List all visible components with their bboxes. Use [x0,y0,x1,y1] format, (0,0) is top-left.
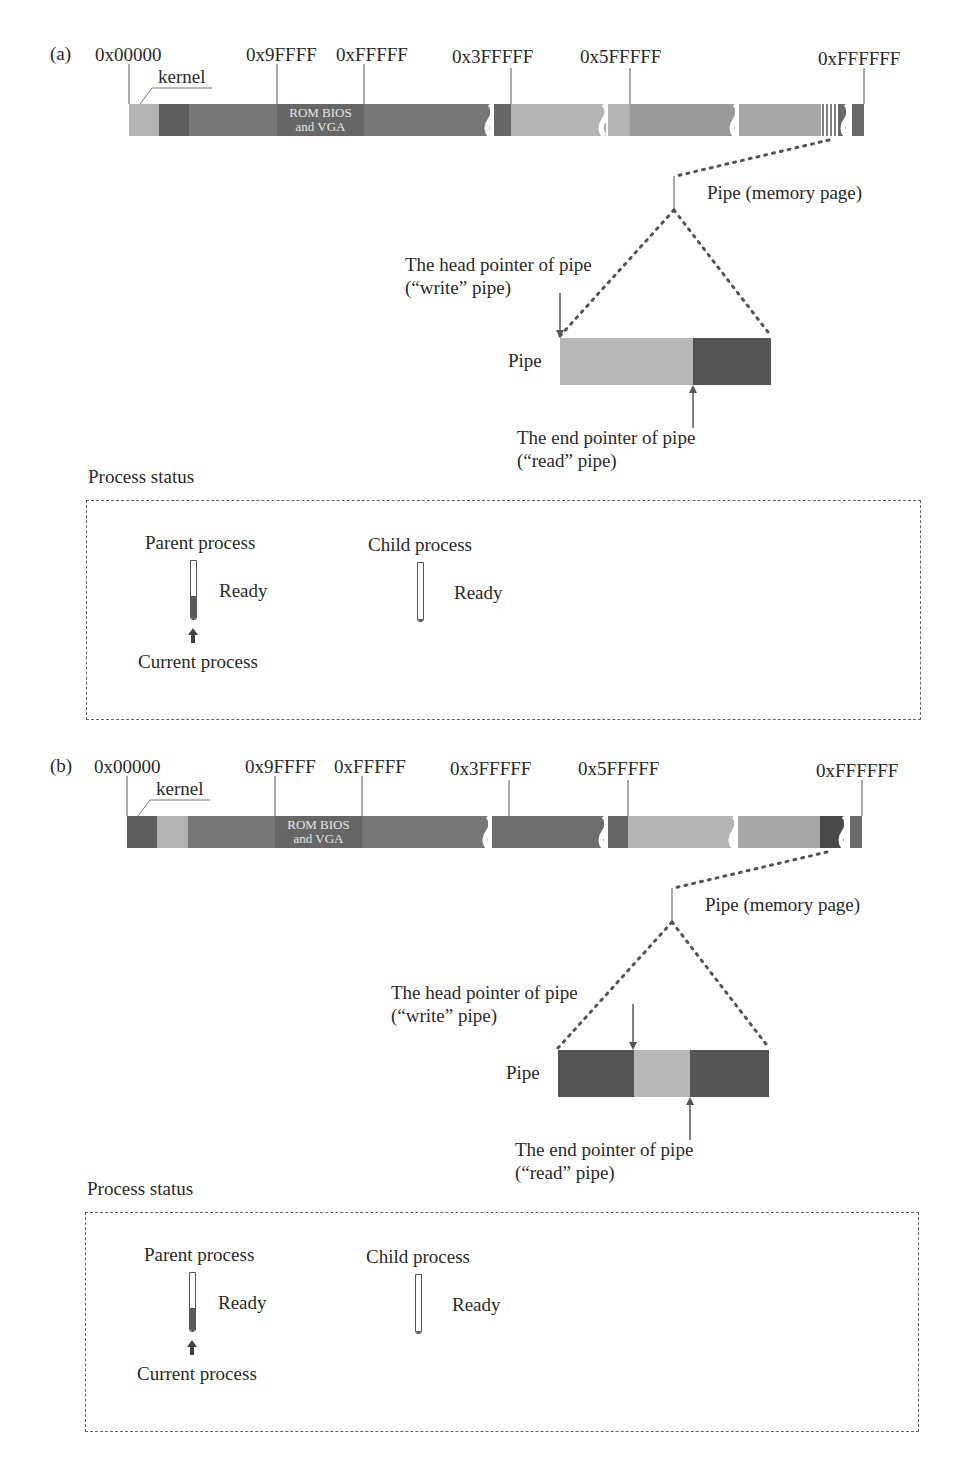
child-process-label: Child process [368,534,472,555]
current-process-label: Current process [138,651,258,672]
rom-bios-vga-label: ROM BIOS and VGA [277,106,364,134]
head-pointer-label: The head pointer of pipe [391,982,578,1003]
parent-state: Ready [218,1292,267,1313]
child-process-label: Child process [366,1246,470,1267]
pipe-label: Pipe [506,1062,540,1083]
end-pointer-label: The end pointer of pipe [517,427,695,448]
end-pointer-label: The end pointer of pipe [515,1139,693,1160]
address-label: 0x5FFFFF [580,46,661,67]
address-label: 0x3FFFFF [450,758,531,779]
pipe-memory-page-label: Pipe (memory page) [707,182,862,203]
pipe-label: Pipe [508,350,542,371]
end-pointer-sublabel: (“read” pipe) [515,1162,615,1183]
current-process-arrow-stem [190,1347,194,1355]
address-label: 0xFFFFF [334,756,406,777]
pipe-memory-page-label: Pipe (memory page) [705,894,860,915]
process-status-title: Process status [88,466,194,487]
parent-process-indicator [190,560,197,620]
kernel-label: kernel [158,66,205,87]
address-label: 0x9FFFF [245,756,316,777]
head-pointer-sublabel: (“write” pipe) [391,1005,497,1026]
address-label: 0x00000 [95,44,162,65]
kernel-label: kernel [156,778,203,799]
address-label: 0x5FFFFF [578,758,659,779]
panel-b: (b) 0x00000 0x9FFFF 0xFFFFF 0x3FFFFF 0x5… [0,712,964,1464]
child-process-indicator [417,562,424,622]
parent-process-label: Parent process [144,1244,254,1265]
child-process-indicator [415,1274,422,1334]
address-label: 0xFFFFF [336,44,408,65]
current-process-label: Current process [137,1363,257,1384]
rom-bios-vga-label: ROM BIOS and VGA [275,818,362,846]
current-process-arrow-icon [188,628,198,635]
address-label: 0x3FFFFF [452,46,533,67]
parent-process-label: Parent process [145,532,255,553]
address-label: 0xFFFFFF [818,48,900,69]
address-label: 0x9FFFF [246,44,317,65]
current-process-arrow-icon [187,1340,197,1347]
panel-label: (a) [50,43,71,64]
child-state: Ready [454,582,503,603]
parent-state: Ready [219,580,268,601]
head-pointer-label: The head pointer of pipe [405,254,592,275]
end-pointer-sublabel: (“read” pipe) [517,450,617,471]
head-pointer-sublabel: (“write” pipe) [405,277,511,298]
current-process-arrow-stem [191,635,195,643]
child-state: Ready [452,1294,501,1315]
address-label: 0x00000 [94,756,161,777]
panel-label: (b) [50,755,72,776]
parent-process-indicator [189,1272,196,1332]
panel-a: (a) 0x00000 0x9FFFF 0xFFFFF 0x3FFFFF 0x5… [0,0,964,732]
address-label: 0xFFFFFF [816,760,898,781]
process-status-title: Process status [87,1178,193,1199]
